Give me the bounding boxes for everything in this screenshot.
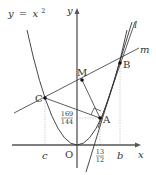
point-M: [80, 78, 84, 82]
y-axis-label: y: [66, 5, 73, 16]
line-l-label: l: [134, 19, 137, 30]
svg-text:169: 169: [61, 110, 73, 118]
point-label-A: A: [102, 114, 111, 125]
tick-label-c: c: [42, 150, 48, 161]
svg-text:13: 13: [96, 148, 104, 156]
x-axis-label: x: [138, 149, 144, 160]
point-label-M: M: [77, 67, 87, 78]
svg-text:144: 144: [61, 118, 73, 126]
origin-label: O: [65, 149, 73, 160]
svg-text:12: 12: [96, 156, 104, 164]
line-m-label: m: [140, 44, 149, 55]
tick-label-a-y: 169 144: [61, 110, 73, 126]
point-B: [118, 61, 122, 65]
point-label-C: C: [35, 93, 43, 104]
right-angle-marker: [91, 108, 101, 115]
y-axis-arrow-icon: [75, 8, 80, 14]
line-l-tangent: [98, 22, 135, 128]
point-A: [98, 116, 102, 120]
tick-label-b: b: [117, 150, 123, 161]
point-C: [43, 96, 47, 100]
curve-label: y = x 2: [7, 7, 45, 19]
point-label-B: B: [123, 59, 130, 70]
parabola-diagram: y = x 2 y x O l m C M B A c b 13 12 169 …: [0, 0, 156, 175]
x-axis-arrow-icon: [135, 143, 141, 148]
tick-label-a-x: 13 12: [96, 148, 104, 164]
